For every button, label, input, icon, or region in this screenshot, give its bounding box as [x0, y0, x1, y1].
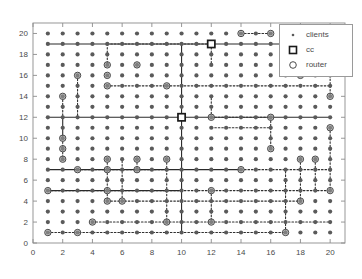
router-node	[119, 198, 125, 204]
client-node	[224, 84, 228, 88]
client-node	[239, 209, 243, 213]
client-node	[209, 168, 213, 172]
cc-node	[208, 40, 215, 47]
x-tick-label: 0	[31, 248, 36, 257]
client-node	[328, 230, 332, 234]
y-tick-label: 14	[19, 92, 28, 101]
client-node	[269, 220, 273, 224]
client-node	[224, 168, 228, 172]
client-node	[75, 84, 79, 88]
client-node	[254, 84, 258, 88]
client-node	[298, 189, 302, 193]
client-node	[179, 136, 183, 140]
client-node	[179, 147, 183, 151]
client-node	[120, 94, 124, 98]
client-node	[90, 136, 94, 140]
client-node	[298, 94, 302, 98]
client-node	[298, 209, 302, 213]
y-tick-label: 8	[24, 155, 29, 164]
client-node	[328, 84, 332, 88]
client-node	[61, 168, 65, 172]
client-node	[150, 209, 154, 213]
client-node	[61, 209, 65, 213]
client-node	[194, 126, 198, 130]
x-tick-label: 8	[150, 248, 155, 257]
client-node	[135, 94, 139, 98]
client-node	[150, 157, 154, 161]
client-node	[239, 157, 243, 161]
router-node	[327, 125, 333, 131]
client-node	[46, 126, 50, 130]
client-node	[61, 31, 65, 35]
client-node	[90, 84, 94, 88]
client-node	[298, 126, 302, 130]
router-node	[164, 219, 170, 225]
client-node	[165, 126, 169, 130]
cc-node	[178, 114, 185, 121]
client-node	[269, 105, 273, 109]
client-node	[135, 209, 139, 213]
client-node	[105, 31, 109, 35]
legend-label-router: router	[306, 60, 327, 69]
client-node	[179, 178, 183, 182]
client-node	[120, 42, 124, 46]
client-node	[209, 84, 213, 88]
router-node	[208, 114, 214, 120]
router-node	[268, 146, 274, 152]
client-node	[150, 31, 154, 35]
legend-item-router: router	[280, 57, 352, 72]
y-tick-label: 2	[24, 218, 29, 227]
client-node	[269, 94, 273, 98]
client-node	[269, 52, 273, 56]
client-node	[165, 189, 169, 193]
client-node	[90, 230, 94, 234]
client-node	[120, 52, 124, 56]
client-node	[75, 42, 79, 46]
client-node	[179, 157, 183, 161]
client-node	[194, 31, 198, 35]
client-node	[313, 115, 317, 119]
client-node	[283, 220, 287, 224]
client-node	[105, 147, 109, 151]
client-node	[90, 105, 94, 109]
client-node	[283, 199, 287, 203]
client-node	[194, 209, 198, 213]
router-node	[60, 135, 66, 141]
client-node	[135, 199, 139, 203]
client-node	[135, 42, 139, 46]
router-node	[104, 156, 110, 162]
client-node	[105, 220, 109, 224]
client-node	[194, 115, 198, 119]
client-node	[46, 73, 50, 77]
client-node	[135, 105, 139, 109]
client-node	[165, 115, 169, 119]
client-node	[209, 52, 213, 56]
client-node	[269, 136, 273, 140]
client-node	[75, 94, 79, 98]
client-node	[328, 147, 332, 151]
client-node	[90, 168, 94, 172]
client-node	[239, 115, 243, 119]
client-node	[269, 157, 273, 161]
client-node	[120, 168, 124, 172]
client-node	[313, 105, 317, 109]
router-node	[164, 156, 170, 162]
client-node	[90, 189, 94, 193]
router-node	[268, 30, 274, 36]
client-node	[120, 178, 124, 182]
router-node	[327, 93, 333, 99]
client-node	[61, 84, 65, 88]
client-node	[269, 168, 273, 172]
client-node	[135, 84, 139, 88]
client-node	[61, 105, 65, 109]
client-node	[254, 199, 258, 203]
router-node	[238, 30, 244, 36]
router-node	[60, 146, 66, 152]
client-node	[105, 105, 109, 109]
client-node	[179, 84, 183, 88]
x-tick-label: 18	[296, 248, 305, 257]
client-node	[194, 94, 198, 98]
client-node	[254, 136, 258, 140]
client-node	[135, 147, 139, 151]
client-node	[150, 73, 154, 77]
